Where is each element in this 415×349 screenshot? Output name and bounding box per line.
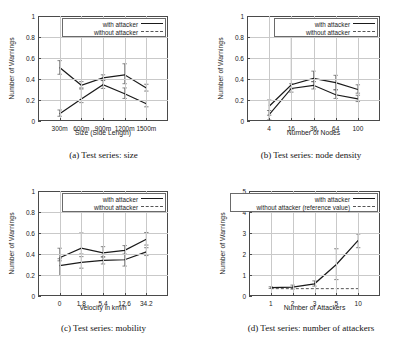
legend-line-sample — [353, 31, 375, 32]
legend-item: without attacker — [65, 203, 163, 211]
x-tick-mark — [336, 118, 337, 121]
y-tick-mark — [38, 233, 41, 234]
legend-item: without attacker — [277, 28, 375, 36]
x-tick-mark — [103, 118, 104, 121]
x-tick-label: 4 — [267, 125, 271, 132]
legend-item: with attacker — [65, 20, 163, 28]
x-tick-label: 100 — [352, 125, 363, 132]
x-tick-mark — [81, 293, 82, 296]
legend-d: with attackerwithout attacker (reference… — [230, 193, 378, 212]
y-tick-mark — [247, 121, 250, 122]
legend-item: without attacker (reference value) — [233, 203, 375, 211]
y-axis-label-b: Number of Warnings — [217, 16, 224, 121]
y-tick-label: 0 — [14, 118, 35, 125]
y-tick-label: 0.6 — [223, 55, 244, 62]
y-tick-mark — [38, 254, 41, 255]
x-tick-label: 12.6 — [118, 300, 131, 307]
y-tick-label: 3 — [225, 230, 246, 237]
legend-label: without attacker — [94, 204, 138, 211]
legend-key-swatch — [141, 204, 163, 210]
x-tick-label: 10 — [355, 300, 362, 307]
y-tick-mark — [38, 275, 41, 276]
legend-label: with attacker — [103, 21, 138, 28]
x-tick-mark — [146, 293, 147, 296]
legend-item: with attacker — [65, 195, 163, 203]
y-tick-label: 1 — [14, 188, 35, 195]
y-tick-label: 1 — [225, 272, 246, 279]
legend-key-swatch — [141, 21, 163, 27]
y-tick-mark — [38, 16, 41, 17]
legend-item: without attacker — [65, 28, 163, 36]
y-tick-label: 0.6 — [14, 55, 35, 62]
x-tick-label: 1200m — [115, 125, 135, 132]
y-tick-label: 0.8 — [14, 209, 35, 216]
y-tick-mark — [38, 100, 41, 101]
x-tick-mark — [125, 118, 126, 121]
x-tick-mark — [271, 293, 272, 296]
y-tick-label: 0 — [225, 293, 246, 300]
y-tick-mark — [38, 37, 41, 38]
y-tick-mark — [249, 212, 252, 213]
legend-label: without attacker — [94, 29, 138, 36]
y-tick-mark — [249, 254, 252, 255]
y-tick-label: 1 — [223, 13, 244, 20]
caption-a: (a) Test series: size — [0, 150, 207, 160]
y-tick-mark — [249, 296, 252, 297]
x-tick-mark — [315, 293, 316, 296]
x-tick-label: 16 — [288, 125, 295, 132]
x-tick-mark — [125, 293, 126, 296]
legend-b: with attackerwithout attacker — [274, 18, 378, 37]
legend-key-swatch — [353, 21, 375, 27]
legend-label: with attacker — [315, 196, 350, 203]
y-tick-label: 2 — [225, 251, 246, 258]
panel-a: Number of Warnings Size (Side Length) (a… — [0, 0, 207, 175]
panel-c: Number of Warnings Velocity in km/h (c) … — [0, 175, 207, 349]
caption-b: (b) Test series: node density — [207, 150, 415, 160]
y-tick-label: 0.8 — [223, 34, 244, 41]
legend-line-sample — [141, 206, 163, 207]
legend-item: with attacker — [233, 195, 375, 203]
y-tick-label: 0 — [14, 293, 35, 300]
x-tick-label: 300m — [52, 125, 68, 132]
x-tick-label: 5.4 — [98, 300, 107, 307]
x-tick-mark — [336, 293, 337, 296]
legend-item: with attacker — [277, 20, 375, 28]
y-tick-mark — [249, 275, 252, 276]
x-tick-label: 0 — [58, 300, 62, 307]
legend-line-sample — [141, 31, 163, 32]
y-tick-label: 0.4 — [14, 76, 35, 83]
legend-key-swatch — [353, 29, 375, 35]
caption-c: (c) Test series: mobility — [0, 323, 207, 333]
x-tick-label: 900m — [95, 125, 111, 132]
y-tick-mark — [249, 191, 252, 192]
legend-a: with attackerwithout attacker — [62, 18, 166, 37]
y-axis-label-a: Number of Warnings — [8, 16, 15, 121]
x-tick-label: 2 — [291, 300, 295, 307]
y-tick-label: 0.2 — [14, 272, 35, 279]
legend-key-swatch — [141, 196, 163, 202]
y-tick-mark — [38, 191, 41, 192]
gridline-vertical — [60, 16, 61, 121]
panel-b: Number of Warnings Number of Nodes (b) T… — [207, 0, 415, 175]
y-tick-label: 0.2 — [14, 97, 35, 104]
y-tick-label: 0.6 — [14, 230, 35, 237]
gridline-vertical — [269, 16, 270, 121]
y-tick-mark — [38, 79, 41, 80]
x-tick-mark — [60, 293, 61, 296]
y-tick-mark — [38, 58, 41, 59]
y-tick-mark — [247, 100, 250, 101]
x-tick-mark — [103, 293, 104, 296]
legend-line-sample — [353, 23, 375, 24]
x-tick-label: 5 — [335, 300, 339, 307]
y-tick-mark — [38, 212, 41, 213]
y-tick-label: 0.4 — [223, 76, 244, 83]
legend-line-sample — [141, 198, 163, 199]
y-tick-mark — [247, 79, 250, 80]
legend-label: without attacker (reference value) — [257, 204, 350, 211]
legend-key-swatch — [353, 204, 375, 210]
x-tick-label: 36 — [310, 125, 317, 132]
x-tick-mark — [146, 118, 147, 121]
y-tick-mark — [247, 16, 250, 17]
legend-label: with attacker — [103, 196, 138, 203]
legend-label: without attacker — [306, 29, 350, 36]
